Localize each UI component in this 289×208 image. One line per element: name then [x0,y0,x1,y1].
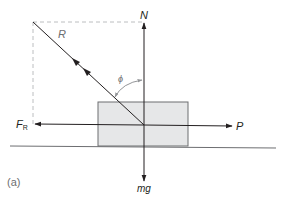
panel-label: (a) [7,176,20,188]
angle-label: ϕ [118,74,123,84]
applied-force-label: P [236,120,244,132]
resultant-reaction-label: R [58,28,66,40]
free-body-diagram: N mg P FR R ϕ (a) [0,0,289,208]
normal-force-label: N [140,9,148,21]
friction-force-label: FR [16,118,28,131]
weight-label: mg [137,183,151,194]
